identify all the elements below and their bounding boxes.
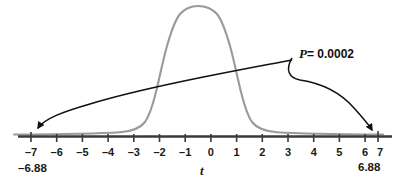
tick-label-4: 4	[301, 146, 327, 158]
tick-label-minus-1: –1	[172, 146, 198, 158]
tick-label-0: 0	[198, 146, 224, 158]
t-distribution-figure: P= 0.0002 –7 –6 –5 –4 –3 –2 –1 0 1 2 3 4…	[0, 0, 407, 188]
tick-label-7: 7	[367, 146, 393, 158]
tick-label-minus-6: –6	[44, 146, 70, 158]
tick-label-minus-4: –4	[95, 146, 121, 158]
tick-label-1: 1	[224, 146, 250, 158]
pvalue-number: 0.0002	[317, 47, 354, 61]
left-critical-value-label: –6.88	[18, 162, 47, 175]
tick-label-minus-2: –2	[147, 146, 173, 158]
pvalue-symbol: P	[299, 46, 307, 61]
plot-canvas	[0, 0, 407, 188]
pvalue-annotation: P= 0.0002	[299, 47, 354, 61]
density-curve	[14, 6, 383, 135]
left-tail-leader-arrow	[38, 60, 292, 128]
tick-label-minus-3: –3	[121, 146, 147, 158]
tick-label-2: 2	[249, 146, 275, 158]
tick-label-5: 5	[326, 146, 352, 158]
pvalue-equals: =	[307, 47, 314, 61]
tick-label-minus-7: –7	[18, 146, 44, 158]
right-tail-leader-arrow	[289, 58, 372, 130]
axis-label-t: t	[200, 164, 204, 178]
tick-label-3: 3	[275, 146, 301, 158]
tick-label-minus-5: –5	[69, 146, 95, 158]
right-critical-value-label: 6.88	[358, 161, 380, 174]
